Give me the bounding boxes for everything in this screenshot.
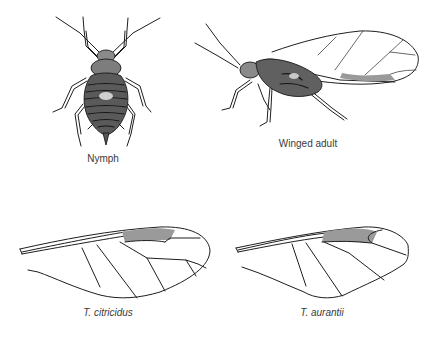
t-citricidus-caption: T. citricidus [83, 307, 133, 318]
nymph-illustration [0, 0, 210, 175]
wing-t-citricidus-illustration [0, 180, 220, 348]
wing-t-aurantii-panel: T. aurantii [214, 180, 434, 348]
nymph-panel: Nymph [0, 0, 210, 175]
nymph-caption: Nymph [87, 153, 119, 164]
winged-adult-panel: Winged adult [190, 0, 434, 175]
winged-adult-caption: Winged adult [279, 138, 337, 149]
t-aurantii-caption: T. aurantii [300, 307, 344, 318]
wing-t-aurantii-illustration [214, 180, 434, 348]
wing-t-citricidus-panel: T. citricidus [0, 180, 220, 348]
